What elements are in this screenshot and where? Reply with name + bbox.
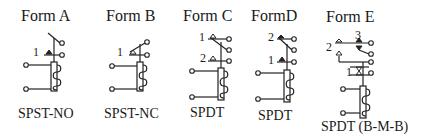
- form-d-contact-label-2: 2: [268, 31, 274, 43]
- form-b-caption: SPST-NC: [104, 107, 159, 121]
- form-e-relay-symbol: [335, 38, 373, 118]
- form-c-relay-symbol: [190, 34, 232, 100]
- form-a-caption: SPST-NO: [18, 107, 74, 121]
- form-b-contact-label-1: 1: [117, 46, 123, 58]
- form-d-relay-symbol: [256, 35, 297, 102]
- form-c-contact-label-2: 2: [200, 52, 206, 64]
- form-c-caption: SPDT: [190, 106, 224, 120]
- form-e-contact-label-1: 1: [346, 66, 352, 78]
- form-b-relay-symbol: [110, 40, 150, 92]
- form-d-caption: SPDT: [258, 109, 292, 123]
- form-e-contact-label-2: 2: [326, 41, 332, 53]
- form-c-contact-label-1: 1: [199, 31, 205, 43]
- form-a-contact-label-1: 1: [33, 46, 39, 58]
- form-e-contact-label-3: 3: [355, 29, 361, 41]
- form-a-relay-symbol: [24, 33, 65, 91]
- form-e-caption: SPDT (B-M-B): [321, 120, 408, 134]
- form-d-contact-label-1: 1: [268, 54, 274, 66]
